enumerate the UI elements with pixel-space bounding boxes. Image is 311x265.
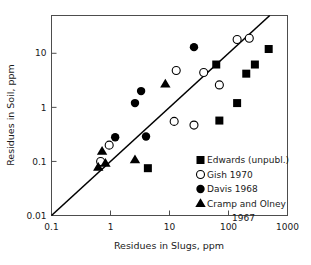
legend-marker-filled-circle [196,185,204,193]
x-tick-label-10: 10 [164,222,176,232]
data-point-2-2 [137,87,145,95]
data-point-1-7 [233,35,241,43]
data-point-1-6 [215,81,223,89]
data-point-0-3 [233,99,241,107]
data-point-1-2 [170,117,178,125]
legend-label-3: Cramp and Olney [207,199,286,209]
y-axis-title: Residues in Soil, ppm [5,64,16,166]
y-tick-label-10: 10 [35,48,47,58]
legend-label-2: Davis 1968 [207,184,258,194]
legend-label-4: 1967 [232,213,255,223]
data-point-0-1 [215,117,223,125]
legend-marker-open-circle [197,171,205,179]
data-point-2-4 [190,43,198,51]
legend-entry-0: Edwards (unpubl.) [197,155,290,165]
data-point-1-8 [245,34,253,42]
data-point-0-0 [144,164,152,172]
x-tick-label-1: 1 [108,222,114,232]
scatter-plot-figure: 0.11101001000 0.010.1110 Residues in Slu… [0,0,311,265]
x-tick-label-1000: 1000 [276,222,299,232]
data-point-0-6 [265,45,273,53]
data-point-1-4 [190,121,198,129]
data-point-1-3 [172,67,180,75]
data-point-2-0 [111,133,119,141]
y-tick-label-1: 1 [41,103,47,113]
legend-label-0: Edwards (unpubl.) [207,155,289,165]
data-point-0-2 [212,61,220,69]
chart-canvas: 0.11101001000 0.010.1110 Residues in Slu… [0,0,311,265]
x-tick-label-100: 100 [220,222,237,232]
data-point-1-1 [105,141,113,149]
legend-label-1: Gish 1970 [207,170,253,180]
y-tick-label-0.1: 0.1 [32,157,46,167]
data-point-2-1 [131,99,139,107]
data-point-0-4 [242,70,250,78]
data-point-0-5 [251,61,259,69]
legend-entry-4: 1967 [232,213,255,223]
legend-marker-filled-square [197,156,205,164]
x-tick-label-0.1: 0.1 [44,222,58,232]
legend-entry-3: Cramp and Olney [195,198,286,208]
data-point-1-5 [200,69,208,77]
x-axis-title: Residues in Slugs, ppm [114,240,224,251]
data-point-2-3 [142,132,150,140]
y-tick-label-0.01: 0.01 [26,211,46,221]
